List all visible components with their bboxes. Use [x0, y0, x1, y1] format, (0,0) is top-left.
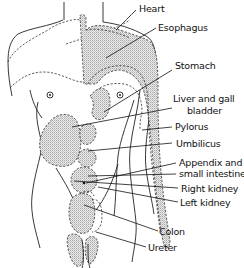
leader-ureter [96, 232, 146, 247]
torso-illustration [0, 0, 244, 268]
label-esophagus: Esophagus [158, 22, 208, 33]
label-ureter: Ureter [148, 242, 177, 253]
label-liver-line2: bladder [187, 105, 222, 116]
left-nipple-center [49, 94, 51, 96]
colon-region [67, 234, 83, 266]
left-arm-inner-line [30, 90, 42, 118]
anatomy-diagram: Heart Esophagus Stomach Liver and gall b… [0, 0, 244, 268]
left-shoulder-outline [8, 20, 63, 96]
label-liver-line1: Liver and gall [173, 93, 235, 104]
label-stomach: Stomach [175, 60, 216, 71]
leader-small-intestine [88, 174, 176, 176]
label-appendix-line1: Appendix and [179, 157, 242, 168]
leader-colon [84, 205, 158, 231]
label-appendix-line2: small intestine [179, 168, 244, 179]
liver-region [40, 114, 81, 166]
appendix-region [71, 167, 97, 193]
ureter-region [85, 237, 98, 264]
label-umbilicus: Umbilicus [176, 138, 221, 149]
label-pylorus: Pylorus [175, 121, 208, 132]
label-heart: Heart [139, 3, 164, 14]
right-nipple-center [119, 94, 121, 96]
left-flank-outline [32, 102, 42, 248]
label-right-kidney: Right kidney [181, 183, 238, 194]
label-colon: Colon [159, 226, 185, 237]
leader-left-kidney [98, 187, 178, 202]
right-kidney-region [69, 194, 95, 234]
pylorus-region [80, 124, 96, 144]
umbilicus-region [78, 149, 96, 167]
chest-lower-dashed-arc [10, 72, 92, 88]
label-left-kidney: Left kidney [180, 197, 230, 208]
stomach-region [90, 89, 110, 120]
